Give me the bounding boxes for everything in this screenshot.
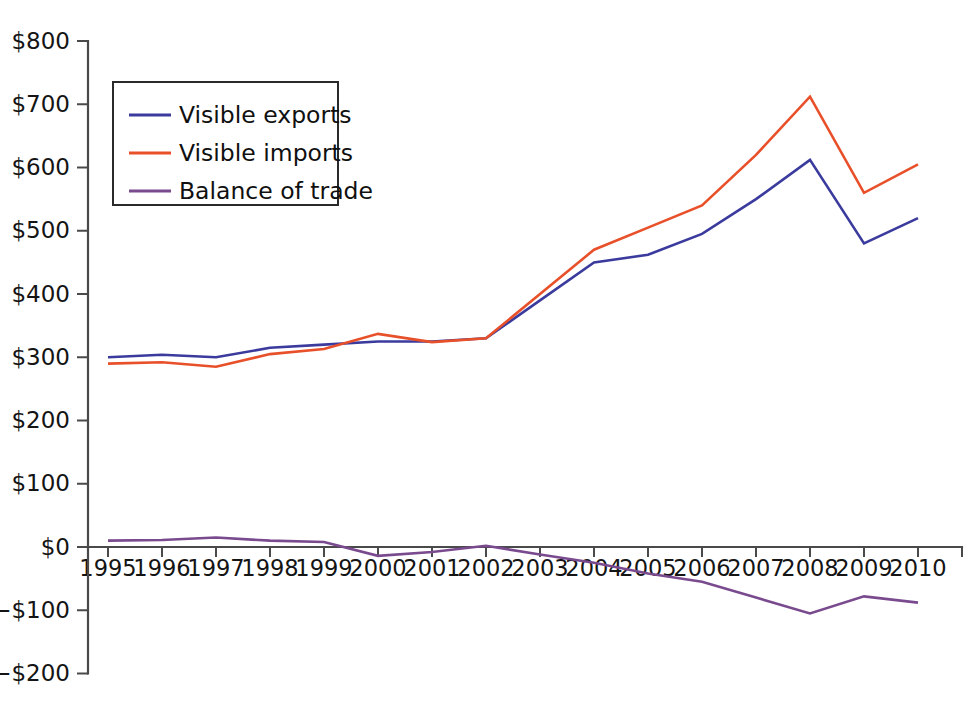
y-tick-label: $400	[11, 281, 70, 307]
x-tick-label: 2007	[727, 555, 784, 581]
x-tick-label: 2010	[889, 555, 946, 581]
y-tick-label: $600	[11, 154, 70, 180]
legend-label-visible-imports: Visible imports	[179, 139, 353, 167]
y-tick-label: $300	[11, 344, 70, 370]
x-tick-label: 1998	[241, 555, 298, 581]
y-tick-label: −$200	[0, 660, 70, 686]
y-tick-label: −$100	[0, 597, 70, 623]
line-chart: $800$700$600$500$400$300$200$100$0−$100−…	[0, 0, 975, 715]
y-tick-label: $200	[11, 407, 70, 433]
y-axis-ticks: $800$700$600$500$400$300$200$100$0−$100−…	[0, 28, 88, 687]
x-tick-label: 1996	[133, 555, 190, 581]
x-tick-label: 2001	[403, 555, 460, 581]
x-tick-label: 2008	[781, 555, 838, 581]
legend-label-balance-of-trade: Balance of trade	[179, 177, 373, 205]
legend-label-visible-exports: Visible exports	[179, 101, 352, 129]
y-tick-label: $700	[11, 91, 70, 117]
x-tick-label: 2009	[835, 555, 892, 581]
y-tick-label: $0	[41, 534, 70, 560]
x-tick-label: 1997	[187, 555, 244, 581]
x-tick-label: 2006	[673, 555, 730, 581]
x-tick-label: 2000	[349, 555, 406, 581]
x-tick-label: 2002	[457, 555, 514, 581]
y-tick-label: $800	[11, 28, 70, 54]
y-tick-label: $100	[11, 470, 70, 496]
chart-container: $800$700$600$500$400$300$200$100$0−$100−…	[0, 0, 975, 715]
chart-legend: Visible exportsVisible importsBalance of…	[113, 82, 373, 205]
x-tick-label: 1999	[295, 555, 352, 581]
y-tick-label: $500	[11, 217, 70, 243]
